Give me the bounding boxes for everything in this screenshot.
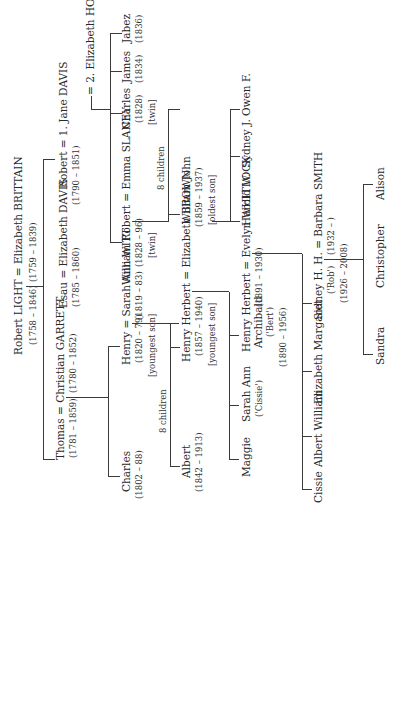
robert-dates: (1790 – 1851): [71, 145, 81, 205]
william-john-note: [oldest son]: [207, 175, 217, 225]
william-john-dates: (1859 – 1937): [194, 167, 204, 227]
james: James: [120, 51, 132, 83]
william-john-descent-line: [212, 221, 230, 222]
hha-nick: ('Bert'): [265, 307, 275, 337]
maggie-drop: [229, 459, 239, 460]
sarah-ann-witt-dates: (1819 – 83): [134, 271, 144, 320]
sarah-ann-nick: ('Cissie'): [254, 380, 264, 417]
robert-couple: Robert = 1. Jane DAVIS: [57, 62, 69, 188]
sidney-descent-line: [324, 259, 363, 260]
william-robert-dates: (1828 – 96): [134, 218, 144, 267]
henry-herbert-note: [youngest son]: [207, 303, 217, 366]
christopher: Christopher: [374, 224, 386, 288]
cissie-drop: [302, 489, 312, 490]
charles-1802-dates: (1802 – 88): [134, 450, 144, 499]
charles-1802: Charles: [120, 451, 132, 492]
esau-couple: Esau = Elizabeth DAVIS: [57, 179, 69, 308]
henry-dates: (1820 – 79): [134, 314, 144, 363]
wr-children-bar: [168, 110, 169, 222]
henry-children-label: 8 children: [158, 389, 168, 433]
gen1-descent-line: [26, 286, 43, 287]
wr-children-end: [168, 109, 180, 110]
william-john: William John: [180, 156, 192, 224]
cissie: Cissie: [312, 471, 324, 503]
hha-drop: [229, 335, 239, 336]
albert-william-drop: [302, 436, 312, 437]
christian-garrett-dates: (1780 – 1852): [68, 333, 78, 393]
henry-note: [youngest son]: [147, 314, 157, 377]
esau-dates: (1785 – 1860): [71, 247, 81, 307]
sandra-drop: [363, 354, 373, 355]
william-robert-note: [twin]: [147, 232, 157, 258]
owen-f: Owen F.: [240, 73, 252, 116]
harold-drop: [230, 221, 240, 222]
thomas-dates: (1781 – 1859): [68, 398, 78, 458]
alison: Alison: [374, 167, 386, 200]
thomas-descent-line: [66, 397, 108, 398]
sidney-dates: (1926 – 2008): [339, 243, 349, 303]
wr-children-label: 8 children: [156, 146, 166, 190]
sandra: Sandra: [374, 327, 386, 365]
henry-drop: [108, 346, 120, 347]
jabez-dates: (1836): [134, 15, 144, 43]
hha-dates: (1890 – 1956): [278, 307, 288, 367]
william-robert-descent-line: [132, 221, 168, 222]
james-dates: (1834): [134, 55, 144, 83]
evelyn-whitlock-dates: (1891 – 1930): [254, 247, 264, 307]
albert-1842: Albert: [180, 445, 192, 478]
charles-a-drop: [108, 476, 120, 477]
sidney-nick: ('Rob'): [326, 266, 336, 294]
albert-drop: [170, 466, 180, 467]
barbara-smith-dates: (1932 – ): [326, 217, 336, 255]
henry-herbert-drop: [170, 347, 180, 348]
jabez: Jabez: [120, 14, 132, 43]
sarah-ann: Sarah Ann: [240, 366, 252, 422]
sidney-children-bar: [363, 185, 364, 355]
robert-drop: [43, 159, 55, 160]
robert-light-couple: Robert LIGHT = Elizabeth BRITTAIN: [12, 156, 24, 355]
henry-herbert-dates: (1857 – 1940): [194, 296, 204, 356]
william-john-drop: [168, 214, 180, 215]
henry-children-bar: [170, 324, 171, 467]
hoar-tick: [91, 96, 92, 110]
albert-1842-dates: (1842 – 1913): [194, 432, 204, 492]
sidney-couple: Sidney H. H. = Barbara SMITH: [312, 152, 324, 320]
sydney-j-drop: [230, 156, 240, 157]
sidney-drop: [302, 303, 312, 304]
robert-descent-line: [91, 109, 110, 110]
elizabeth-brittain-dates: (1759 – 1839): [28, 222, 38, 282]
hh-children-bar: [229, 292, 230, 460]
charles-1828: Charles: [120, 88, 132, 129]
thomas-couple: Thomas = Christian GARRETT: [54, 297, 66, 460]
maggie: Maggie: [240, 437, 252, 477]
robert-children-bar: [110, 33, 111, 243]
wj-children-bar: [230, 110, 231, 222]
henry-herbert-descent-line: [192, 291, 229, 292]
thomas-children-bar: [108, 347, 109, 477]
hha-children-bar: [302, 254, 303, 490]
family-tree-diagram: Robert LIGHT = Elizabeth BRITTAIN (1758 …: [0, 0, 398, 720]
elizabeth-margaret-drop: [302, 371, 312, 372]
owen-drop: [230, 109, 240, 110]
sarah-ann-drop: [229, 405, 239, 406]
harold-w: Harold W.: [240, 174, 252, 226]
gen1-children-bar: [43, 160, 44, 460]
elizabeth-hoar: = 2. Elizabeth HOAR: [84, 0, 96, 95]
charles-1828-note: [twin]: [147, 99, 157, 125]
sydney-j: Sydney J.: [240, 119, 252, 168]
robert-light-dates: (1758 – 1846): [28, 285, 38, 345]
william-robert-couple: William Robert = Emma SLANEY: [120, 107, 132, 285]
alison-drop: [363, 184, 373, 185]
charles-1828-dates: (1828): [134, 95, 144, 123]
